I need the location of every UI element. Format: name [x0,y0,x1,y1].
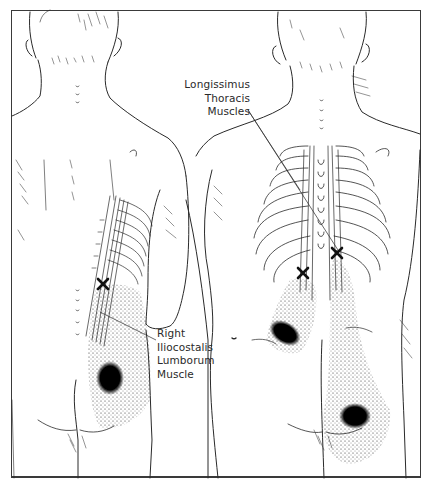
left-pain-core [96,361,124,395]
longissimus-label: Longissimus Thoracis Muscles [170,78,250,119]
longissimus-leader-line-2 [248,110,338,250]
longissimus-label-line-2: Thoracis [170,92,250,106]
iliocostalis-label-line-4: Muscle [157,368,215,382]
longissimus-label-line-1: Longissimus [170,78,250,92]
iliocostalis-label-line-1: Right [157,327,215,341]
right-referred-pain-area-lower [323,258,390,464]
iliocostalis-label-line-2: Iliocostalis [157,341,215,355]
iliocostalis-label: Right Iliocostalis Lumborum Muscle [157,327,215,381]
iliocostalis-label-line-3: Lumborum [157,354,215,368]
left-referred-pain-area [88,285,151,429]
right-trigger-point-x-icon-upper [332,248,342,258]
spine-vertebrae [318,160,324,249]
right-lower-pain-core [339,403,371,429]
right-ribcage [254,146,390,282]
anatomical-illustration [0,0,437,484]
longissimus-label-line-3: Muscles [170,105,250,119]
